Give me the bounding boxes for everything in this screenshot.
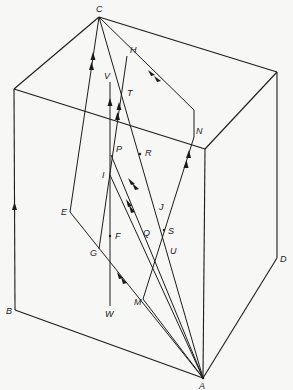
label-n: N: [196, 126, 203, 136]
ray-e-a: [70, 212, 203, 378]
arrow-up-ec-1: [91, 52, 96, 60]
arrow-up-gh-1: [117, 102, 122, 110]
label-w: W: [105, 309, 115, 319]
label-d: D: [280, 254, 287, 264]
dot-s: [163, 229, 165, 231]
dot-f: [109, 235, 111, 237]
label-u: U: [170, 246, 177, 256]
label-r: R: [145, 148, 152, 158]
label-s: S: [168, 226, 174, 236]
label-c: C: [96, 4, 103, 14]
label-j: J: [158, 202, 164, 212]
arrow-up-vw: [108, 98, 113, 106]
ray-m-a: [143, 299, 203, 378]
ray-g-h: [99, 56, 127, 249]
label-t: T: [127, 88, 134, 98]
ray-paths: [70, 17, 203, 378]
label-i: I: [102, 170, 105, 180]
label-q: Q: [143, 228, 150, 238]
label-v: V: [104, 71, 111, 81]
label-f: F: [115, 231, 121, 241]
arrowheads: [12, 52, 191, 284]
label-p: P: [116, 144, 122, 154]
arrow-down-pj-2: [132, 183, 139, 190]
edge-b-a: [15, 310, 203, 378]
box-ray-diagram: C H V T N P R I J E F Q S G U M W B D A: [0, 0, 293, 390]
box-edges: [14, 17, 277, 378]
ray-c-a: [99, 17, 203, 378]
arrow-up-nm-1: [186, 150, 191, 158]
dot-r: [139, 153, 141, 155]
ray-i-a: [110, 175, 203, 378]
label-m: M: [134, 297, 142, 307]
arrow-down-ga-2: [121, 277, 127, 284]
dot-a: [202, 377, 205, 380]
arrow-down-ga-1: [117, 272, 123, 279]
edge-c-topleft: [14, 17, 99, 89]
ray-p-a: [111, 155, 203, 378]
label-a: A: [198, 381, 205, 390]
label-g: G: [90, 248, 97, 258]
edge-front-vertical: [203, 149, 205, 378]
label-b: B: [6, 306, 12, 316]
label-e: E: [61, 207, 68, 217]
edge-d-a: [203, 258, 277, 378]
arrow-up-left-edge: [12, 202, 17, 210]
ray-c-n: [99, 17, 194, 110]
arrow-down-pj-1: [128, 178, 135, 185]
arrow-up-ec-2: [89, 62, 94, 70]
arrow-up-gh-2: [115, 112, 120, 120]
edge-topright-topfront: [205, 72, 277, 149]
edge-left-vertical: [14, 89, 15, 310]
label-h: H: [130, 45, 137, 55]
